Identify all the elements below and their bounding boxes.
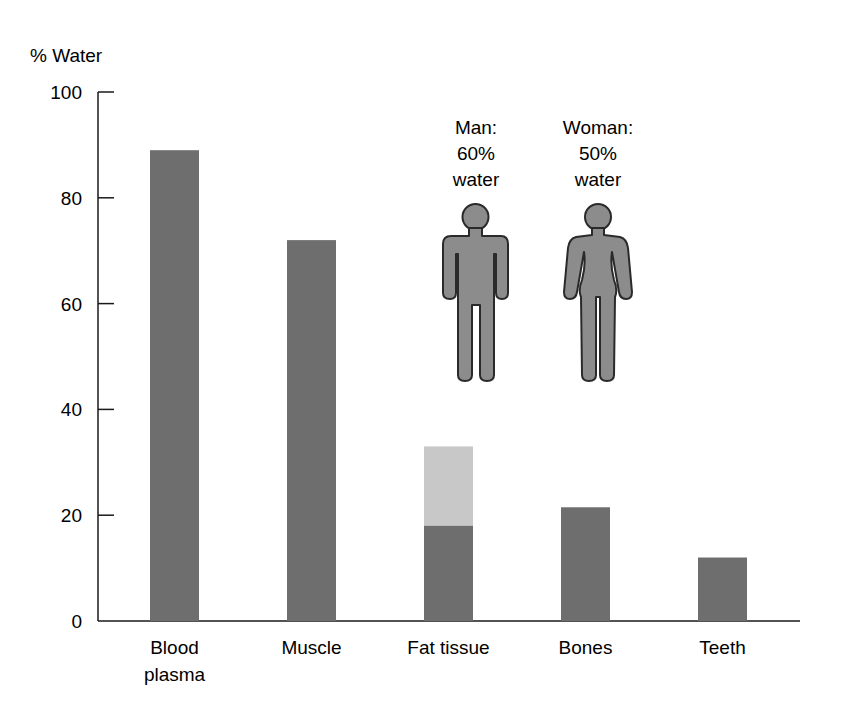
y-tick-label: 60 — [61, 294, 82, 315]
bar — [287, 240, 336, 621]
woman-label-line3: water — [574, 169, 622, 190]
woman-label-line2: 50% — [579, 143, 617, 164]
woman-icon — [564, 204, 632, 381]
x-category-label: plasma — [144, 664, 206, 685]
y-tick-label: 20 — [61, 505, 82, 526]
x-category-label: Blood — [150, 637, 199, 658]
bar — [561, 507, 610, 621]
bar — [424, 526, 473, 621]
x-category-label: Fat tissue — [407, 637, 489, 658]
bars — [150, 150, 747, 621]
y-tick-label: 40 — [61, 399, 82, 420]
bar — [150, 150, 199, 621]
y-axis-title: % Water — [30, 45, 103, 66]
water-content-chart: % Water 020406080100 BloodplasmaMuscleFa… — [0, 0, 863, 715]
man-label-line2: 60% — [457, 143, 495, 164]
x-category-label: Muscle — [281, 637, 341, 658]
woman-figure: Woman: 50% water — [563, 117, 633, 381]
bar — [698, 558, 747, 621]
man-figure: Man: 60% water — [443, 117, 508, 381]
y-tick-label: 0 — [71, 611, 82, 632]
woman-label-line1: Woman: — [563, 117, 633, 138]
man-icon — [443, 204, 508, 381]
x-category-label: Bones — [559, 637, 613, 658]
man-label-line1: Man: — [455, 117, 497, 138]
man-label-line3: water — [452, 169, 500, 190]
x-category-label: Teeth — [699, 637, 745, 658]
y-tick-label: 100 — [50, 82, 82, 103]
x-axis-labels: BloodplasmaMuscleFat tissueBonesTeeth — [144, 637, 746, 685]
y-tick-label: 80 — [61, 188, 82, 209]
bar-range-segment — [424, 446, 473, 525]
